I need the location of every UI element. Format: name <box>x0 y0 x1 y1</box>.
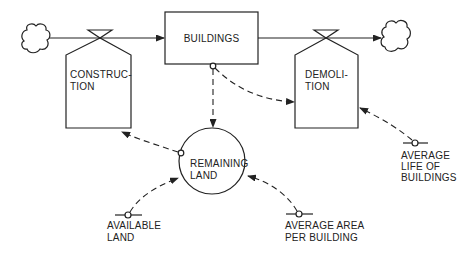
link-buildings-to-demolition <box>215 68 294 102</box>
demolition-label-line1: DEMOLI- <box>305 69 348 80</box>
link-buildings-to-remaining-land <box>210 63 216 127</box>
construction-label-line2: TION <box>70 81 95 92</box>
remaining-land-label-line1: REMAINING <box>190 158 248 169</box>
average-life-label-line3: BUILDINGS <box>401 172 457 183</box>
buildings-label: BUILDINGS <box>184 33 240 44</box>
sink-cloud-icon <box>381 20 410 51</box>
average-life-label-line2: LIFE OF <box>401 161 440 172</box>
stock-flow-diagram: CONSTRUC- TION BUILDINGS DEMOLI- TION RE… <box>0 0 476 255</box>
source-cloud-icon <box>22 24 50 53</box>
average-area-label-line2: PER BUILDING <box>285 232 358 243</box>
average-life-of-buildings-constant <box>360 108 428 146</box>
demolition-label-line2: TION <box>305 81 330 92</box>
average-life-label-line1: AVERAGE <box>401 150 450 161</box>
average-area-label-line1: AVERAGE AREA <box>285 220 365 231</box>
remaining-land-label-line2: LAND <box>190 170 217 181</box>
construction-label-line1: CONSTRUC- <box>70 69 132 80</box>
available-land-label-line1: AVAILABLE <box>107 220 161 231</box>
average-area-per-building-constant <box>248 176 313 217</box>
available-land-constant <box>115 178 178 218</box>
available-land-label-line2: LAND <box>107 232 134 243</box>
link-remaining-land-to-construction <box>122 132 184 156</box>
